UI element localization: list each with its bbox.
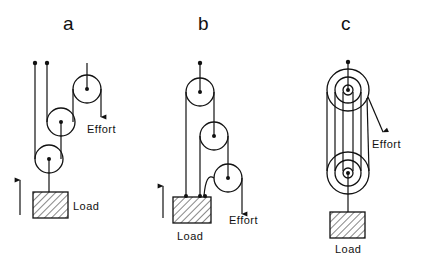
panel-label-c: c: [341, 13, 351, 34]
panel-label-b: b: [198, 13, 209, 34]
axle-icon: [198, 90, 202, 94]
load-label-c: Load: [335, 243, 361, 255]
panel-b: b Effort Load: [163, 13, 258, 242]
load-block: [330, 212, 365, 238]
effort-label-a: Effort: [87, 123, 116, 135]
effort-label-b: Effort: [229, 214, 258, 226]
pulley-diagram: a Effort Load b: [0, 0, 422, 261]
effort-arrow-icon: [368, 97, 383, 132]
load-label-b: Load: [177, 230, 203, 242]
load-block: [33, 192, 68, 218]
axle-icon: [346, 88, 350, 92]
panel-label-a: a: [63, 13, 74, 34]
load-label-a: Load: [73, 200, 99, 212]
effort-label-c: Effort: [372, 138, 401, 150]
panel-a: a Effort Load: [20, 13, 116, 218]
load-block: [173, 197, 211, 223]
panel-c: c Effort Load: [327, 13, 401, 255]
